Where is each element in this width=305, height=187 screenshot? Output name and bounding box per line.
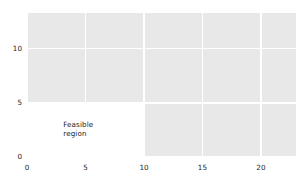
xtick-label: 5 [83,164,88,172]
ytick-label: 5 [8,99,22,107]
ytick-label: 0 [8,153,22,161]
xtick-label: 15 [198,164,207,172]
xtick-label: 0 [25,164,30,172]
plot-area: Feasible region [27,13,296,157]
xtick-label: 20 [256,164,265,172]
xtick-label: 10 [139,164,148,172]
gridline-vertical [202,13,203,157]
chart-figure: Feasible region 051015200510 [0,0,305,187]
gridline-horizontal [27,48,296,49]
ytick-label: 10 [8,45,22,53]
gridline-vertical [260,13,261,157]
feasible-region-label: Feasible region [63,120,93,138]
